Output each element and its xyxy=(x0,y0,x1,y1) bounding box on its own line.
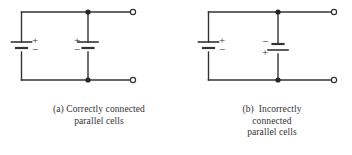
top-junction-dot-b xyxy=(275,9,280,14)
top-junction-dot-a xyxy=(85,9,90,14)
caption-b-line-2: connected xyxy=(196,116,348,128)
caption-b-line-1: (b) Incorrectly xyxy=(196,104,348,116)
middle-cell-plus-label-b: + xyxy=(262,46,268,58)
bottom-junction-dot-b xyxy=(275,77,280,82)
left-cell-minus-label-a: − xyxy=(32,43,38,55)
caption-a-line-2: parallel cells xyxy=(4,116,194,128)
caption-a-line-1: (a) Correctly connected xyxy=(4,104,194,116)
bottom-junction-dot-a xyxy=(85,77,90,82)
bottom-right-terminal-a xyxy=(130,77,135,82)
bottom-right-terminal-b xyxy=(331,77,336,82)
caption-panel-b: (b) Incorrectly connected parallel cells xyxy=(196,104,348,139)
middle-cell-minus-label-a: − xyxy=(74,43,80,55)
circuit-diagrams-svg: + − + − + − − + xyxy=(0,0,352,100)
caption-panel-a: (a) Correctly connected parallel cells xyxy=(4,104,194,127)
left-cell-minus-label-b: − xyxy=(219,43,225,55)
parallel-cells-figure: + − + − + − − + (a) Correctly connected … xyxy=(0,0,352,155)
polarity-labels: + − + − + − − + xyxy=(32,34,268,58)
top-right-terminal-b xyxy=(331,9,336,14)
caption-b-line-3: parallel cells xyxy=(196,127,348,139)
top-right-terminal-a xyxy=(130,9,135,14)
